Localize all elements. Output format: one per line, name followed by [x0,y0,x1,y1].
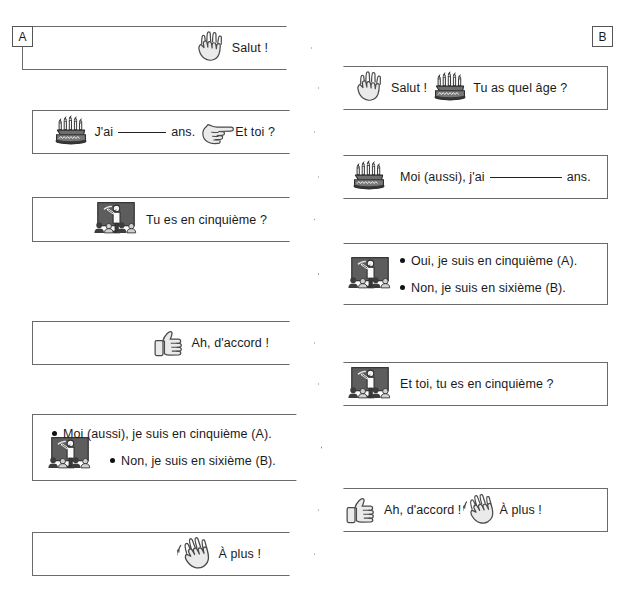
bubble-b3[interactable]: Oui, je suis en cinquième (A). Non, je s… [318,243,608,305]
classroom-icon [346,255,394,294]
bullet-dot [400,285,405,290]
waving-hand-icon [463,492,497,529]
bubble-b1-text-2: Tu as quel âge ? [473,81,567,95]
bubble-b3-option-1: Oui, je suis en cinquième (A). [411,254,577,268]
bubble-b4[interactable]: Et toi, tu es en cinquième ? [318,362,608,406]
bubble-b2[interactable]: Moi (aussi), j'ai ans. [318,155,608,199]
bubble-b3-option-2: Non, je suis en sixième (B). [411,281,566,295]
classroom-icon [346,365,394,404]
waving-hand-icon [177,535,213,574]
thumbs-up-icon [344,492,378,529]
bubble-b5-text-2: À plus ! [499,503,542,517]
bullet-dot [400,258,405,263]
bubble-a5-option-2: Non, je suis en sixième (B). [121,454,276,468]
bubble-a6-text: À plus ! [219,547,262,561]
bubble-a4-text: Ah, d'accord ! [192,336,269,350]
bubble-a1[interactable]: Salut ! [22,26,312,70]
birthday-cake-icon [352,159,386,195]
raised-hand-icon [352,70,385,107]
bubble-a2[interactable]: J'ai ans. Et toi ? [32,110,315,154]
list-item: Non, je suis en sixième (B). [110,454,276,468]
bubble-a2-text-1: J'ai [94,125,113,139]
bubble-a5-options: Moi (aussi), je suis en cinquième (A). N… [52,427,276,468]
bubble-b5[interactable]: Ah, d'accord ! À plus ! [318,488,608,532]
bubble-a5-option-1: Moi (aussi), je suis en cinquième (A). [63,427,272,441]
bullet-dot [110,458,115,463]
birthday-cake-icon [54,114,88,150]
bubble-b5-text-1: Ah, d'accord ! [384,503,461,517]
column-label-b-text: B [598,30,606,44]
bubble-b4-text: Et toi, tu es en cinquième ? [400,377,554,391]
bubble-b1-text-1: Salut ! [391,81,427,95]
bubble-a1-text: Salut ! [232,41,268,55]
bubble-b2-text-2: ans. [567,170,591,184]
bubble-a3-text: Tu es en cinquième ? [146,213,267,227]
cut-off-header [0,0,627,12]
thumbs-up-icon [152,325,186,362]
bullet-dot [52,431,57,436]
column-label-a: A [12,26,33,47]
list-item: Non, je suis en sixième (B). [400,281,577,295]
bubble-a5[interactable]: Moi (aussi), je suis en cinquième (A). N… [32,414,322,481]
worksheet-sheet: A B [0,0,627,589]
bubble-b1[interactable]: Salut ! Tu as quel âge ? [318,66,608,110]
classroom-icon [92,200,140,239]
bubble-a4[interactable]: Ah, d'accord ! [32,321,315,365]
birthday-cake-icon [433,70,467,106]
raised-hand-icon [193,30,226,67]
fill-in-blank[interactable] [490,177,562,178]
bubble-b2-text-1: Moi (aussi), j'ai [400,170,485,184]
bubble-b3-options: Oui, je suis en cinquième (A). Non, je s… [400,254,577,295]
column-label-b: B [592,26,613,47]
fill-in-blank[interactable] [118,132,166,133]
list-item: Oui, je suis en cinquième (A). [400,254,577,268]
bubble-a3[interactable]: Tu es en cinquième ? [32,197,315,242]
bubble-a6[interactable]: À plus ! [32,532,315,576]
bubble-a2-text-2: ans. [171,125,195,139]
pointing-hand-icon [201,115,235,150]
list-item: Moi (aussi), je suis en cinquième (A). [52,427,276,441]
column-label-a-text: A [18,30,26,44]
bubble-a2-text-3: Et toi ? [235,125,275,139]
